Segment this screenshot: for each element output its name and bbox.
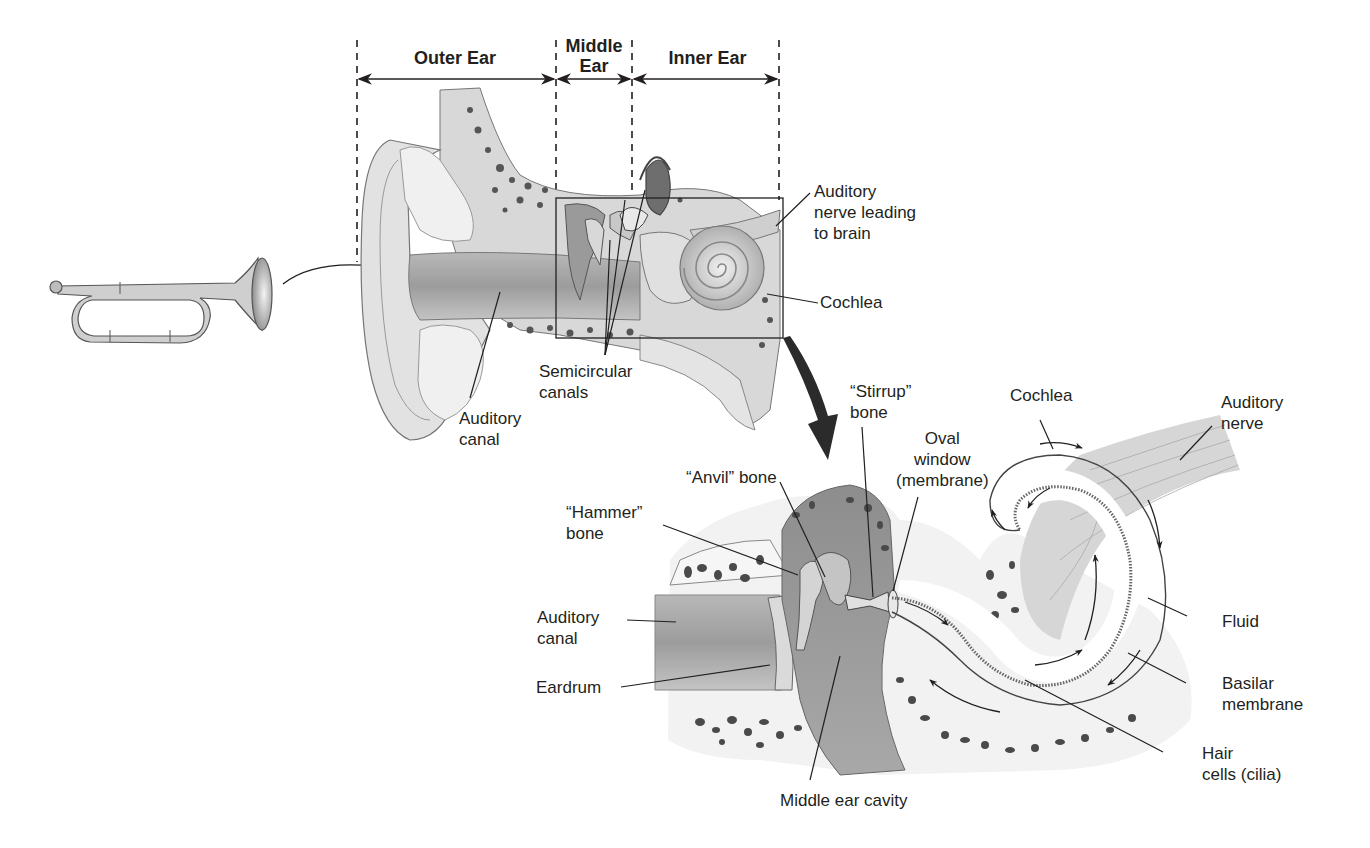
label-basilar-membrane: Basilar membrane bbox=[1222, 673, 1303, 715]
label-hair-cells: Hair cells (cilia) bbox=[1202, 743, 1281, 785]
bugle-icon bbox=[50, 258, 272, 343]
label-cochlea-detail: Cochlea bbox=[1010, 385, 1072, 406]
label-anvil-bone: “Anvil” bone bbox=[686, 467, 777, 488]
label-cochlea-top: Cochlea bbox=[820, 292, 882, 313]
ear-diagram-artwork bbox=[0, 0, 1370, 848]
label-auditory-nerve-leading-to-brain: Auditory nerve leading to brain bbox=[814, 181, 916, 244]
label-auditory-canal-top: Auditory canal bbox=[459, 408, 521, 450]
label-semicircular-canals: Semicircular canals bbox=[539, 361, 633, 403]
label-eardrum: Eardrum bbox=[536, 677, 601, 698]
label-stirrup-bone: “Stirrup” bone bbox=[850, 381, 911, 423]
label-auditory-canal-detail: Auditory canal bbox=[537, 607, 599, 649]
label-auditory-nerve: Auditory nerve bbox=[1221, 392, 1283, 434]
outer-ear-header: Outer Ear bbox=[380, 48, 530, 68]
label-hammer-bone: “Hammer” bone bbox=[566, 502, 643, 544]
label-oval-window: Oval window (membrane) bbox=[896, 428, 989, 491]
middle-ear-header: Middle Ear bbox=[556, 36, 632, 76]
label-fluid: Fluid bbox=[1222, 611, 1259, 632]
inner-ear-header: Inner Ear bbox=[640, 48, 775, 68]
label-middle-ear-cavity: Middle ear cavity bbox=[780, 790, 908, 811]
curved-arrow-icon bbox=[783, 336, 838, 460]
